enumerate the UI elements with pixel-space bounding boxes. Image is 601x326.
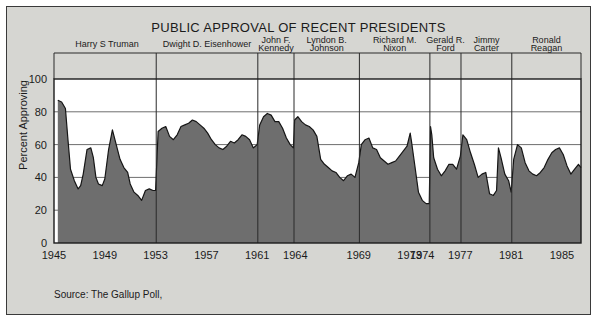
- x-axis-ticks: 1945194919531957196119641969197319741977…: [42, 249, 574, 261]
- president-name: Kennedy: [258, 43, 294, 53]
- chart-figure: PUBLIC APPROVAL OF RECENT PRESIDENTS Per…: [6, 6, 591, 315]
- president-name: Harry S Truman: [75, 39, 139, 49]
- x-tick-1977: 1977: [448, 249, 472, 261]
- y-tick-60: 60: [35, 139, 47, 151]
- x-tick-1969: 1969: [347, 249, 371, 261]
- president-name-labels: Harry S TrumanDwight D. EisenhowerJohn F…: [75, 35, 562, 53]
- president-name: Dwight D. Eisenhower: [163, 39, 252, 49]
- y-tick-100: 100: [29, 73, 47, 85]
- president-name: Reagan: [531, 43, 563, 53]
- y-tick-0: 0: [41, 237, 47, 249]
- y-axis-ticks: 020406080100: [29, 73, 47, 249]
- president-name: Ford: [436, 43, 455, 53]
- president-name: Johnson: [310, 43, 344, 53]
- x-tick-1957: 1957: [194, 249, 218, 261]
- x-tick-1953: 1953: [143, 249, 167, 261]
- x-tick-1945: 1945: [42, 249, 66, 261]
- x-tick-1981: 1981: [499, 249, 523, 261]
- y-tick-80: 80: [35, 106, 47, 118]
- y-tick-40: 40: [35, 171, 47, 183]
- president-name: Nixon: [383, 43, 406, 53]
- y-tick-20: 20: [35, 204, 47, 216]
- x-tick-1974: 1974: [410, 249, 434, 261]
- x-tick-1961: 1961: [245, 249, 269, 261]
- x-tick-1985: 1985: [550, 249, 574, 261]
- x-tick-1964: 1964: [283, 249, 307, 261]
- president-name: Carter: [474, 43, 499, 53]
- x-tick-1949: 1949: [93, 249, 117, 261]
- approval-area-chart: 020406080100 194519491953195719611964196…: [7, 7, 592, 316]
